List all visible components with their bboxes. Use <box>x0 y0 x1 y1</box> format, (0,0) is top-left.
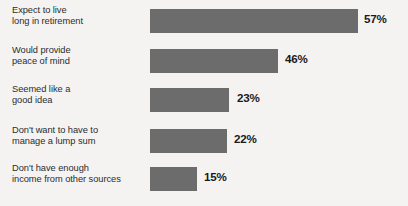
bar-track <box>150 167 400 191</box>
category-label: Don't have enough income from other sour… <box>12 163 147 186</box>
bar-track <box>150 9 400 33</box>
bar-row: Don't have enough income from other sour… <box>0 163 408 197</box>
horizontal-bar-chart: Expect to live long in retirement 57% Wo… <box>0 0 408 206</box>
bar-fill <box>150 167 197 191</box>
category-label: Expect to live long in retirement <box>12 5 140 28</box>
bar-value-label: 46% <box>285 52 308 65</box>
bar-value-label: 22% <box>234 132 257 145</box>
bar-fill <box>150 9 358 33</box>
bar-track <box>150 129 400 153</box>
bar-value-label: 23% <box>237 91 260 104</box>
bar-value-label: 15% <box>204 170 227 183</box>
bar-fill <box>150 88 229 112</box>
bar-value-label: 57% <box>364 12 387 25</box>
bar-row: Seemed like a good idea 23% <box>0 84 408 118</box>
bar-track <box>150 49 400 73</box>
bar-fill <box>150 49 278 73</box>
category-label: Seemed like a good idea <box>12 84 140 107</box>
category-label: Don't want to have to manage a lump sum <box>12 125 147 148</box>
category-label: Would provide peace of mind <box>12 45 140 68</box>
bar-row: Don't want to have to manage a lump sum … <box>0 125 408 159</box>
bar-track <box>150 88 400 112</box>
bar-row: Would provide peace of mind 46% <box>0 45 408 79</box>
bar-fill <box>150 129 227 153</box>
bar-row: Expect to live long in retirement 57% <box>0 5 408 39</box>
